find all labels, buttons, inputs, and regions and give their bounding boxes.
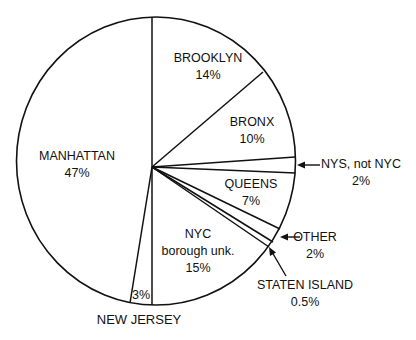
label-brooklyn: BROOKLYN 14% bbox=[174, 50, 243, 84]
label-brooklyn-pct: 14% bbox=[174, 67, 243, 84]
label-nj-name: NEW JERSEY bbox=[97, 311, 182, 328]
label-new-jersey-pct: 3% bbox=[132, 287, 150, 304]
label-staten-pct: 0.5% bbox=[257, 294, 353, 311]
label-nyc-borough-unknown: NYC borough unk. 15% bbox=[162, 226, 235, 277]
label-staten-island: STATEN ISLAND 0.5% bbox=[257, 277, 353, 311]
label-other-pct: 2% bbox=[293, 246, 337, 263]
label-manhattan-name: MANHATTAN bbox=[39, 148, 115, 165]
label-other: OTHER 2% bbox=[293, 229, 337, 263]
label-nys-name: NYS, not NYC bbox=[321, 156, 401, 173]
label-queens: QUEENS 7% bbox=[225, 176, 278, 210]
label-nj-pct: 3% bbox=[132, 287, 150, 304]
label-bronx-name: BRONX bbox=[230, 114, 274, 131]
label-staten-name: STATEN ISLAND bbox=[257, 277, 353, 294]
label-manhattan: MANHATTAN 47% bbox=[39, 148, 115, 182]
label-nyc-unk-line2: borough unk. bbox=[162, 243, 235, 260]
label-other-name: OTHER bbox=[293, 229, 337, 246]
label-bronx-pct: 10% bbox=[230, 131, 274, 148]
label-manhattan-pct: 47% bbox=[39, 165, 115, 182]
label-queens-name: QUEENS bbox=[225, 176, 278, 193]
label-nys-not-nyc: NYS, not NYC 2% bbox=[321, 156, 401, 190]
label-nyc-unk-pct: 15% bbox=[162, 260, 235, 277]
label-new-jersey: NEW JERSEY bbox=[97, 311, 182, 328]
label-brooklyn-name: BROOKLYN bbox=[174, 50, 243, 67]
label-nys-pct: 2% bbox=[321, 173, 401, 190]
label-nyc-unk-line1: NYC bbox=[162, 226, 235, 243]
label-bronx: BRONX 10% bbox=[230, 114, 274, 148]
label-queens-pct: 7% bbox=[225, 193, 278, 210]
